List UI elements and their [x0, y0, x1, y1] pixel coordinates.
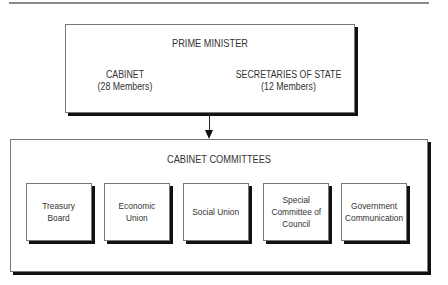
committee-box-government-communication: Government Communication: [341, 183, 407, 241]
committee-box-special-committee: Special Committee of Council: [263, 183, 329, 241]
cabinet-label: CABINET: [77, 69, 174, 81]
secretaries-members: (12 Members): [225, 81, 353, 93]
committee-label: Economic Union: [119, 200, 156, 224]
arrow-down-icon: [205, 130, 213, 139]
prime-minister-title: PRIME MINISTER: [83, 37, 336, 49]
committee-label: Treasury Board: [43, 200, 76, 224]
connector-line: [209, 113, 210, 131]
cabinet-committees-box: CABINET COMMITTEES Treasury Board Econom…: [10, 139, 428, 272]
committee-label: Government Communication: [345, 200, 403, 224]
cabinet-members: (28 Members): [77, 81, 174, 93]
cabinet-committees-title: CABINET COMMITTEES: [36, 153, 402, 165]
cabinet-group: CABINET (28 Members): [77, 69, 174, 93]
committee-box-social-union: Social Union: [183, 183, 249, 241]
committee-label: Special Committee of Council: [271, 194, 321, 230]
committee-label: Social Union: [193, 206, 240, 218]
secretaries-group: SECRETARIES OF STATE (12 Members): [225, 69, 353, 93]
committee-box-treasury-board: Treasury Board: [26, 183, 92, 241]
prime-minister-box: PRIME MINISTER CABINET (28 Members) SECR…: [65, 24, 355, 113]
top-rule: [9, 2, 429, 4]
secretaries-label: SECRETARIES OF STATE: [225, 69, 353, 81]
committee-box-economic-union: Economic Union: [104, 183, 170, 241]
